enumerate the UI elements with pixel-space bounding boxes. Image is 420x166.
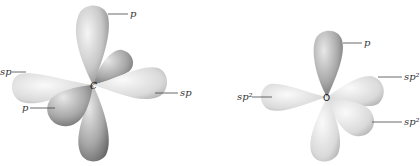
label-o-sp2-lower-right: sp² <box>404 117 420 127</box>
label-o-sp2-left: sp² <box>237 92 253 102</box>
label-c-sp-right: sp <box>180 88 192 98</box>
label-c-p-top: p <box>130 9 136 19</box>
center-atom-C: C <box>90 81 97 91</box>
orbital-diagrams: C O <box>0 0 420 166</box>
label-o-p-top: p <box>364 38 370 48</box>
center-atom-O: O <box>323 93 330 103</box>
label-c-p-front: p <box>22 103 28 113</box>
label-c-sp-left: sp <box>0 67 12 77</box>
label-o-sp2-upper-right: sp² <box>404 72 420 82</box>
carbon-sp-orbital-diagram: C <box>12 6 178 162</box>
oxygen-sp2-orbital-diagram: O <box>252 31 402 162</box>
